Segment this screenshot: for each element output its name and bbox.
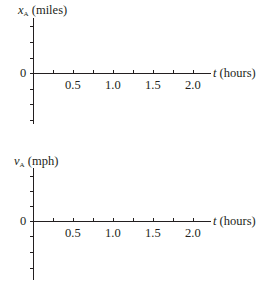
origin-label: 0 [20, 67, 26, 80]
x-tick-label: 2.0 [185, 79, 201, 92]
x-tick-label: 1.0 [105, 79, 121, 92]
x-tick-label: 0.5 [65, 227, 81, 240]
y-axis-label: vA (mph) [14, 155, 58, 169]
x-tick-label: 1.5 [145, 79, 161, 92]
velocity-time-plot: vA (mph) 0 0.5 1.0 1.5 2.0 t (hours) [0, 148, 259, 283]
x-tick-label: 2.0 [185, 227, 201, 240]
x-tick-label: 1.0 [105, 227, 121, 240]
origin-label: 0 [20, 215, 26, 228]
y-axis-label: xA (miles) [18, 4, 67, 18]
x-axis-label: t (hours) [213, 67, 256, 80]
x-tick-label: 0.5 [65, 79, 81, 92]
position-time-plot: xA (miles) 0 0.5 1.0 1.5 2.0 t (hours) [0, 0, 259, 140]
x-axis-label: t (hours) [213, 215, 256, 228]
x-tick-label: 1.5 [145, 227, 161, 240]
